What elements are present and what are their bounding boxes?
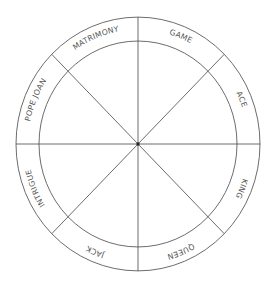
sector-label-game: GAME (168, 27, 193, 45)
sector-label-matrimony: MATRIMONY (71, 24, 119, 52)
sector-label-ace: ACE (235, 90, 249, 109)
sector-label-jack: JACK (84, 244, 106, 261)
sector-label-king: KING (234, 178, 250, 201)
pope-joan-board-wheel: MATRIMONY GAME ACE KING QUEEN JACK INTRI… (0, 0, 275, 291)
center-hub (136, 142, 139, 145)
sector-label-pope-joan: POPE JOAN (23, 77, 48, 123)
